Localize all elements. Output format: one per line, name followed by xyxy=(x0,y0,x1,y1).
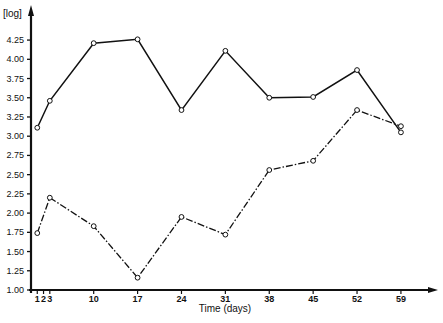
data-point-marker xyxy=(47,98,52,103)
series-line-solid xyxy=(37,39,401,132)
y-tick-label: 3.75 xyxy=(6,74,24,84)
y-axis-arrow-icon xyxy=(28,5,34,16)
data-point-marker xyxy=(223,48,228,53)
data-point-marker xyxy=(35,125,40,130)
data-point-marker xyxy=(311,95,316,100)
data-point-marker xyxy=(267,95,272,100)
axes xyxy=(27,5,438,294)
data-point-marker xyxy=(35,231,40,236)
y-tick-label: 1.25 xyxy=(6,266,24,276)
data-point-marker xyxy=(179,215,184,220)
y-tick-label: 1.50 xyxy=(6,247,24,257)
data-point-marker xyxy=(311,158,316,163)
x-tick-label: 45 xyxy=(308,294,318,304)
data-point-marker xyxy=(135,275,140,280)
data-point-marker xyxy=(267,168,272,173)
y-tick-label: 2.75 xyxy=(6,150,24,160)
y-tick-label: 3.00 xyxy=(6,131,24,141)
y-tick-label: 2.50 xyxy=(6,170,24,180)
data-point-marker xyxy=(47,195,52,200)
line-chart: 1.001.251.501.752.002.252.502.753.003.25… xyxy=(0,0,443,323)
data-point-marker xyxy=(91,41,96,46)
x-tick-label: 24 xyxy=(176,294,186,304)
x-tick-label: 59 xyxy=(396,294,406,304)
data-point-marker xyxy=(399,124,404,129)
labels: 1.001.251.501.752.002.252.502.753.003.25… xyxy=(3,8,406,314)
x-axis-title: Time (days) xyxy=(199,303,251,314)
y-tick-label: 1.00 xyxy=(6,285,24,295)
data-point-marker xyxy=(179,108,184,113)
x-axis-arrow-icon xyxy=(428,287,438,293)
x-tick-label: 1 xyxy=(35,294,40,304)
x-tick-label: 10 xyxy=(89,294,99,304)
data-point-marker xyxy=(135,37,140,42)
data-point-marker xyxy=(91,224,96,229)
y-tick-label: 4.00 xyxy=(6,54,24,64)
y-tick-label: 2.00 xyxy=(6,208,24,218)
y-tick-label: 1.75 xyxy=(6,227,24,237)
data-point-marker xyxy=(399,130,404,135)
y-tick-label: 4.25 xyxy=(6,35,24,45)
y-tick-label: 3.25 xyxy=(6,112,24,122)
y-tick-label: 2.25 xyxy=(6,189,24,199)
data-point-marker xyxy=(355,108,360,113)
data-point-marker xyxy=(223,232,228,237)
x-tick-label: 2 xyxy=(41,294,46,304)
series-group xyxy=(35,37,403,280)
y-axis-title: [log] xyxy=(3,8,22,19)
figure-caption xyxy=(0,314,443,323)
series-line-dash-dot xyxy=(37,110,401,278)
x-tick-label: 52 xyxy=(352,294,362,304)
y-tick-label: 3.50 xyxy=(6,93,24,103)
data-point-marker xyxy=(355,68,360,73)
x-tick-label: 38 xyxy=(264,294,274,304)
x-tick-label: 3 xyxy=(47,294,52,304)
x-tick-label: 17 xyxy=(133,294,143,304)
